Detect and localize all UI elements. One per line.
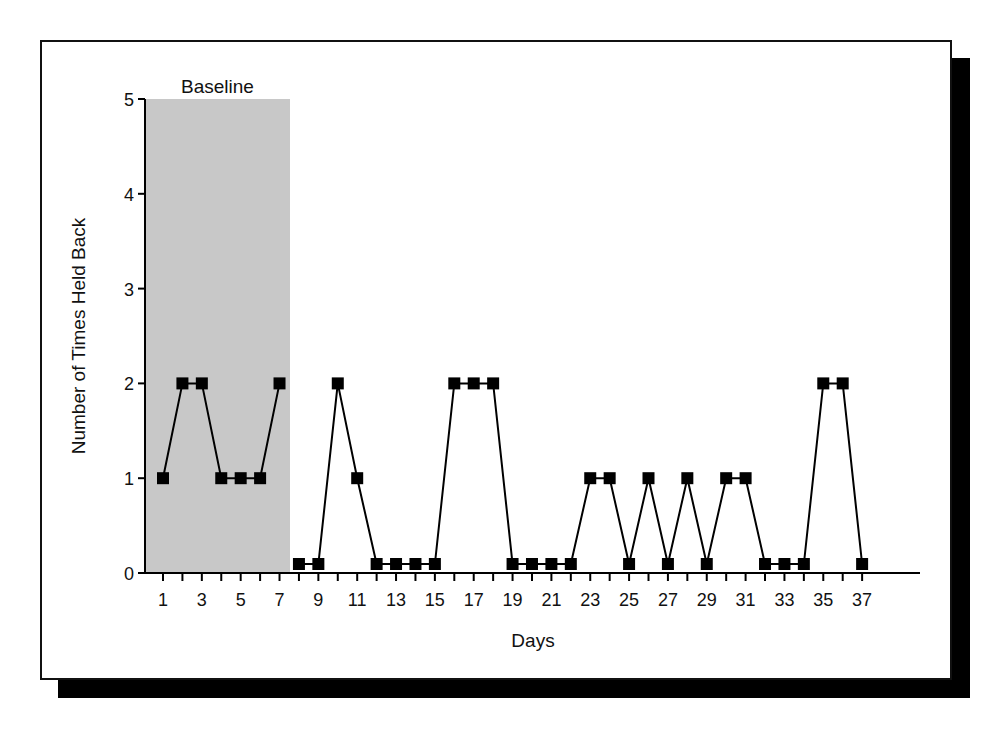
data-point-marker bbox=[429, 558, 441, 570]
data-point-marker bbox=[468, 377, 480, 389]
data-point-marker bbox=[778, 558, 790, 570]
data-point-marker bbox=[254, 472, 266, 484]
data-point-marker bbox=[293, 558, 305, 570]
data-point-marker bbox=[196, 377, 208, 389]
y-tick-label: 3 bbox=[124, 280, 134, 300]
data-point-marker bbox=[856, 558, 868, 570]
y-tick-label: 4 bbox=[124, 185, 134, 205]
data-point-marker bbox=[526, 558, 538, 570]
data-point-marker bbox=[176, 377, 188, 389]
x-tick-label: 9 bbox=[313, 590, 323, 610]
data-point-marker bbox=[643, 472, 655, 484]
x-tick-label: 37 bbox=[852, 590, 872, 610]
x-tick-label: 3 bbox=[197, 590, 207, 610]
data-point-marker bbox=[681, 472, 693, 484]
x-axis: 135791113151719212325272931333537 bbox=[145, 573, 920, 610]
data-point-marker bbox=[235, 472, 247, 484]
baseline-shaded-region bbox=[145, 99, 290, 573]
data-point-marker bbox=[371, 558, 383, 570]
x-tick-label: 25 bbox=[619, 590, 639, 610]
data-point-marker bbox=[837, 377, 849, 389]
y-axis-title: Number of Times Held Back bbox=[68, 217, 89, 454]
data-point-marker bbox=[351, 472, 363, 484]
data-point-marker bbox=[798, 558, 810, 570]
data-point-marker bbox=[332, 377, 344, 389]
data-point-marker bbox=[720, 472, 732, 484]
data-point-marker bbox=[274, 377, 286, 389]
data-point-marker bbox=[701, 558, 713, 570]
y-axis: 012345 bbox=[124, 90, 145, 584]
x-tick-label: 35 bbox=[813, 590, 833, 610]
x-tick-label: 15 bbox=[425, 590, 445, 610]
x-axis-title: Days bbox=[511, 630, 554, 651]
y-tick-label: 5 bbox=[124, 90, 134, 110]
x-tick-label: 1 bbox=[158, 590, 168, 610]
data-point-marker bbox=[215, 472, 227, 484]
x-tick-label: 13 bbox=[386, 590, 406, 610]
data-point-marker bbox=[740, 472, 752, 484]
data-point-marker bbox=[409, 558, 421, 570]
baseline-label: Baseline bbox=[181, 76, 254, 97]
data-point-marker bbox=[487, 377, 499, 389]
x-tick-label: 17 bbox=[464, 590, 484, 610]
x-tick-label: 5 bbox=[236, 590, 246, 610]
data-point-marker bbox=[448, 377, 460, 389]
data-point-marker bbox=[817, 377, 829, 389]
x-tick-label: 27 bbox=[658, 590, 678, 610]
data-point-marker bbox=[759, 558, 771, 570]
line-chart: Baseline 012345 135791113151719212325272… bbox=[0, 0, 1001, 731]
data-point-marker bbox=[584, 472, 596, 484]
data-point-marker bbox=[312, 558, 324, 570]
data-point-marker bbox=[604, 472, 616, 484]
x-tick-label: 21 bbox=[541, 590, 561, 610]
data-point-marker bbox=[390, 558, 402, 570]
data-point-marker bbox=[157, 472, 169, 484]
data-point-marker bbox=[507, 558, 519, 570]
x-tick-label: 31 bbox=[736, 590, 756, 610]
x-tick-label: 19 bbox=[503, 590, 523, 610]
data-point-marker bbox=[623, 558, 635, 570]
y-tick-label: 1 bbox=[124, 469, 134, 489]
y-tick-label: 0 bbox=[124, 564, 134, 584]
data-point-marker bbox=[662, 558, 674, 570]
x-tick-label: 23 bbox=[580, 590, 600, 610]
x-tick-label: 29 bbox=[697, 590, 717, 610]
data-point-marker bbox=[565, 558, 577, 570]
x-tick-label: 7 bbox=[275, 590, 285, 610]
y-tick-label: 2 bbox=[124, 374, 134, 394]
data-point-marker bbox=[545, 558, 557, 570]
x-tick-label: 33 bbox=[774, 590, 794, 610]
x-tick-label: 11 bbox=[348, 590, 367, 610]
